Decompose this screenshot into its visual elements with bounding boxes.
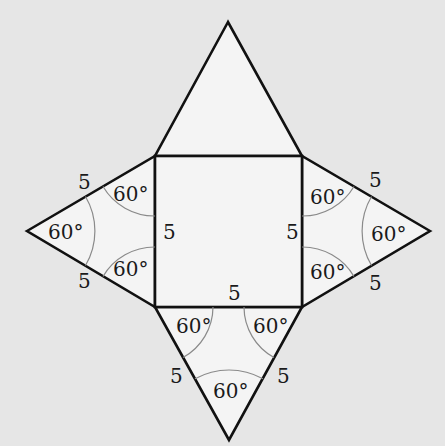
right-lower-angle-label: 60°: [310, 260, 345, 284]
net-drawing: 5 5 5 5 5 60° 60° 60° 5 5 60° 60° 60° 5 …: [0, 0, 445, 446]
right-upper-edge-label: 5: [369, 168, 382, 192]
left-lower-angle-label: 60°: [113, 257, 148, 281]
square-left-edge-label: 5: [163, 220, 176, 244]
bottom-left-angle-label: 60°: [176, 314, 211, 338]
right-lower-edge-label: 5: [369, 271, 382, 295]
right-apex-angle-label: 60°: [371, 222, 406, 246]
top-triangle-face: [155, 22, 302, 156]
bottom-right-angle-label: 60°: [253, 314, 288, 338]
bottom-left-edge-label: 5: [170, 364, 183, 388]
pyramid-net-diagram: 5 5 5 5 5 60° 60° 60° 5 5 60° 60° 60° 5 …: [0, 0, 445, 446]
bottom-apex-angle-label: 60°: [213, 379, 248, 403]
left-lower-edge-label: 5: [78, 269, 91, 293]
left-triangle-face: [27, 156, 155, 307]
left-upper-angle-label: 60°: [113, 182, 148, 206]
square-right-edge-label: 5: [286, 220, 299, 244]
left-upper-edge-label: 5: [78, 170, 91, 194]
right-upper-angle-label: 60°: [310, 185, 345, 209]
left-apex-angle-label: 60°: [48, 220, 83, 244]
bottom-right-edge-label: 5: [277, 364, 290, 388]
right-triangle-face: [302, 156, 430, 307]
square-bottom-edge-label: 5: [228, 281, 241, 305]
